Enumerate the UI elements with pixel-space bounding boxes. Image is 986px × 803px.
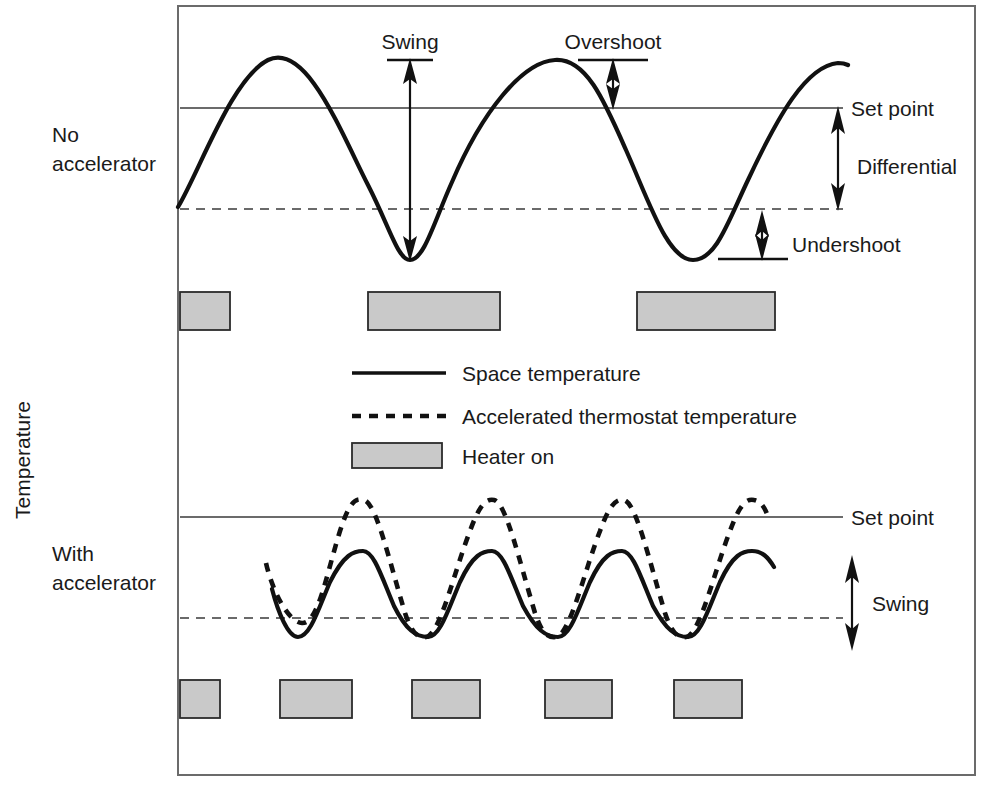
section-label-no-accelerator-line1: No [52,123,79,146]
thermostat-accelerator-diagram: Temperature No accelerator With accelera… [0,0,986,803]
annotation-label-overshoot: Overshoot [565,30,662,53]
section-label-with-accelerator-line1: With [52,542,94,565]
heater-on-bar [180,680,220,718]
annotation-label-swing-top: Swing [381,30,438,53]
heater-on-bar [545,680,612,718]
heater-on-bar [674,680,742,718]
annotation-label-set-point-bottom: Set point [851,506,934,529]
annotation-label-set-point-top: Set point [851,97,934,120]
space-temperature-curve-top [178,58,848,260]
legend-label-accelerated-thermostat-temperature: Accelerated thermostat temperature [462,405,797,428]
heater-on-bar [180,292,230,330]
heater-on-bar [637,292,775,330]
annotation-label-undershoot: Undershoot [792,233,901,256]
plot-frame [178,6,975,775]
y-axis-label: Temperature [11,401,34,519]
annotation-label-differential: Differential [857,155,957,178]
figure-container: Temperature No accelerator With accelera… [0,0,986,803]
accelerated-thermostat-curve [266,499,767,637]
legend-marker-heater-on [352,443,442,468]
legend: Space temperature Accelerated thermostat… [352,362,797,468]
legend-label-space-temperature: Space temperature [462,362,641,385]
section-label-no-accelerator-line2: accelerator [52,152,156,175]
heater-on-bar [368,292,500,330]
heater-on-bar [280,680,352,718]
legend-label-heater-on: Heater on [462,445,554,468]
annotation-label-swing-bottom: Swing [872,592,929,615]
heater-on-bar [412,680,480,718]
section-label-with-accelerator-line2: accelerator [52,571,156,594]
